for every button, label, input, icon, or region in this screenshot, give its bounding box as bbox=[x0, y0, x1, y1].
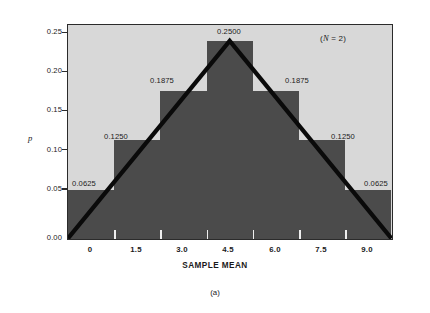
x-tick-label: 3.0 bbox=[160, 245, 204, 254]
x-axis-title: SAMPLE MEAN bbox=[0, 261, 430, 270]
figure-container: 0.25 0.20 0.15 0.10 0.05 0.00 p bbox=[0, 0, 430, 313]
bar-value-label-2: 0.1875 bbox=[140, 77, 184, 85]
y-axis-title: p bbox=[28, 133, 32, 143]
y-tick-label: 0.00 bbox=[22, 234, 62, 242]
x-tick-inner bbox=[207, 230, 209, 239]
sample-size-annotation: (N = 2) bbox=[320, 33, 346, 43]
y-tick-label: 0.20 bbox=[22, 67, 62, 75]
x-tick-label: 6.0 bbox=[253, 245, 297, 254]
x-tick-inner bbox=[253, 230, 255, 239]
y-tick-label: 0.25 bbox=[22, 28, 62, 36]
x-tick-label: 9.0 bbox=[345, 245, 389, 254]
figure-caption: (a) bbox=[0, 288, 430, 297]
x-tick-label: 1.5 bbox=[114, 245, 158, 254]
bar-value-label-0: 0.0625 bbox=[62, 180, 106, 188]
x-tick-inner bbox=[345, 230, 347, 239]
annotation-rest: = 2) bbox=[329, 34, 346, 43]
x-tick-label: 7.5 bbox=[299, 245, 343, 254]
x-tick-inner bbox=[160, 230, 162, 239]
y-tick-label: 0.10 bbox=[22, 146, 62, 154]
bar-value-label-5: 0.1250 bbox=[321, 133, 365, 141]
bar-value-label-6: 0.0625 bbox=[354, 180, 398, 188]
bar-value-label-1: 0.1250 bbox=[94, 133, 138, 141]
y-tick-label: 0.15 bbox=[22, 106, 62, 114]
x-tick-inner bbox=[114, 230, 116, 239]
y-tick-label: 0.05 bbox=[22, 185, 62, 193]
x-tick-inner bbox=[299, 230, 301, 239]
bar-value-label-3: 0.2500 bbox=[207, 28, 251, 36]
x-tick-label: 0 bbox=[68, 245, 112, 254]
x-tick-label: 4.5 bbox=[206, 245, 250, 254]
bar-value-label-4: 0.1875 bbox=[275, 77, 319, 85]
